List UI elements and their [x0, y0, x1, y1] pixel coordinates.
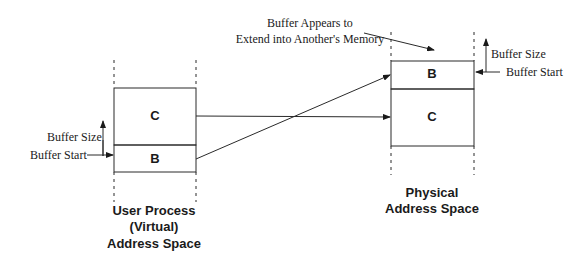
physical-title-line-1: Physical: [406, 185, 459, 200]
physical-buffer-start-label: Buffer Start: [506, 65, 563, 79]
virtual-segment-c-label: C: [150, 108, 160, 123]
physical-title-line-2: Address Space: [385, 201, 479, 216]
virtual-title-line-1: User Process: [112, 203, 195, 218]
virtual-buffer-size-label: Buffer Size: [47, 130, 102, 144]
annotation-line-1: Buffer Appears to: [267, 16, 353, 30]
annotation-line-2: Extend into Another's Memory: [236, 32, 384, 46]
virtual-title-line-3: Address Space: [107, 236, 201, 251]
overflow-annotation: Buffer Appears to Extend into Another's …: [236, 16, 434, 50]
virtual-title-line-2: (Virtual): [130, 219, 179, 234]
physical-address-space: B C Buffer Size Buffer Start Physical Ad…: [385, 32, 563, 216]
physical-segment-b-label: B: [427, 66, 436, 81]
page-mappings: [196, 75, 390, 159]
virtual-address-space: C B Buffer Size Buffer Start User Proces…: [30, 60, 201, 251]
virtual-segment-b-label: B: [150, 151, 159, 166]
virtual-buffer-start-label: Buffer Start: [30, 148, 87, 162]
address-mapping-diagram: Buffer Appears to Extend into Another's …: [0, 0, 585, 264]
physical-buffer-size-label: Buffer Size: [491, 47, 546, 61]
physical-segment-c-label: C: [427, 109, 437, 124]
